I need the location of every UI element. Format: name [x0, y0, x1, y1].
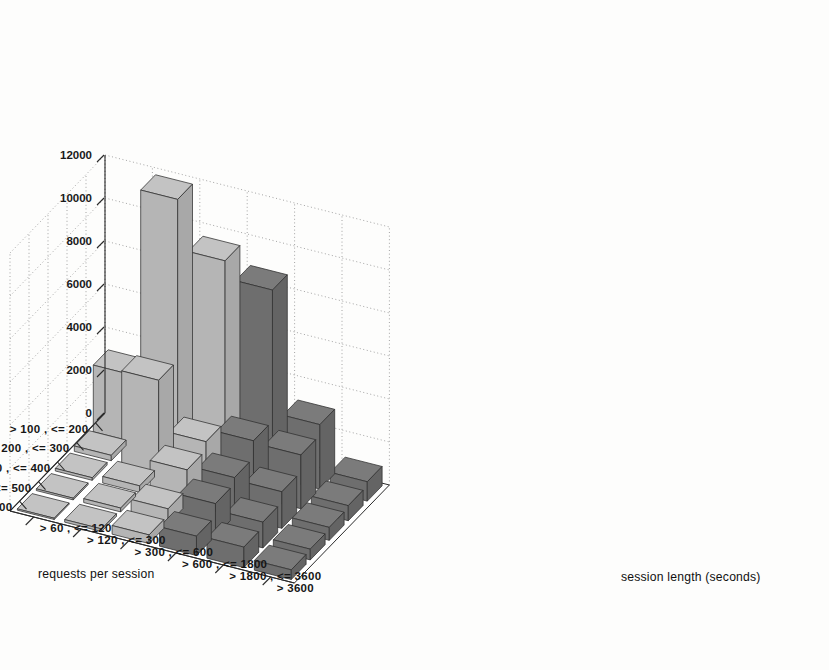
left-axis-category-label: > 300 , <= 400	[0, 462, 51, 474]
z-tick-label: 4000	[66, 321, 92, 333]
right-axis-category-label: > 3600	[277, 582, 314, 594]
bar-right-face	[178, 184, 193, 453]
right-axis-category-label: > 60 , <= 120	[40, 522, 112, 534]
left-axis-category-label: > 400 , <= 500	[0, 482, 32, 494]
right-axis-category-label: > 1800 , <= 3600	[229, 570, 321, 582]
left-axis-category-label: > 200 , <= 300	[0, 442, 70, 454]
z-tick-mark	[97, 155, 104, 162]
right-axis-title: session length (seconds)	[621, 570, 761, 584]
z-tick-label: 2000	[66, 364, 92, 376]
z-tick-mark	[97, 198, 104, 205]
right-tick-mark	[26, 517, 34, 525]
left-axis-title: requests per session	[38, 567, 154, 581]
z-tick-label: 10000	[60, 192, 92, 204]
right-axis-category-label: > 120 , <= 300	[87, 534, 166, 546]
z-tick-label: 0	[86, 407, 92, 419]
z-tick-mark	[97, 241, 104, 248]
z-tick-mark	[97, 327, 104, 334]
z-tick-label: 6000	[66, 278, 92, 290]
right-axis-category-label: > 600 , <= 1800	[182, 558, 267, 570]
chart-figure: 020004000600080001000012000> 100 , <= 20…	[0, 0, 829, 670]
z-tick-label: 8000	[66, 235, 92, 247]
z-tick-label: 12000	[60, 149, 92, 161]
left-axis-category-label: > 100 , <= 200	[10, 423, 89, 435]
right-axis-category-label: > 300 , <= 600	[135, 546, 214, 558]
z-tick-mark	[97, 284, 104, 291]
chart-canvas: 020004000600080001000012000> 100 , <= 20…	[0, 0, 829, 670]
